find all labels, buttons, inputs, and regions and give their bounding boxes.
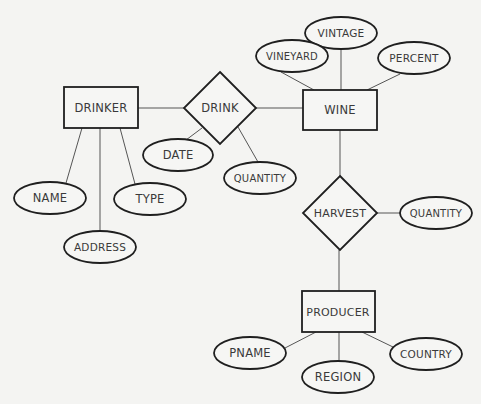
edge-drink-date <box>186 128 202 140</box>
relationship-label: DRINK <box>201 101 239 115</box>
er-diagram: DRINKER WINE PRODUCER DRINK HARVEST VINT… <box>0 0 481 404</box>
attribute-date[interactable]: DATE <box>143 139 213 171</box>
relationship-label: HARVEST <box>314 207 366 220</box>
attribute-label: COUNTRY <box>400 348 452 360</box>
attribute-vineyard[interactable]: VINEYARD <box>256 40 328 72</box>
entity-label: DRINKER <box>74 101 127 115</box>
attribute-pname[interactable]: PNAME <box>214 337 286 369</box>
attribute-country[interactable]: COUNTRY <box>390 338 462 370</box>
attribute-label: ADDRESS <box>74 241 126 253</box>
attribute-region[interactable]: REGION <box>302 361 374 393</box>
attribute-harvest-quantity[interactable]: QUANTITY <box>400 197 472 229</box>
attribute-label: PERCENT <box>389 52 439 64</box>
edge-drinker-type <box>120 128 135 184</box>
attribute-label: PNAME <box>229 346 271 360</box>
relationship-harvest[interactable]: HARVEST <box>303 176 377 250</box>
attribute-type[interactable]: TYPE <box>114 183 186 215</box>
attribute-drink-quantity[interactable]: QUANTITY <box>224 162 296 194</box>
attribute-percent[interactable]: PERCENT <box>378 42 450 74</box>
edge-producer-pname <box>285 332 316 348</box>
attribute-label: VINTAGE <box>318 27 365 39</box>
attribute-address[interactable]: ADDRESS <box>64 231 136 263</box>
attribute-label: REGION <box>315 370 361 384</box>
edge-drink-quantity <box>238 127 258 162</box>
attribute-name[interactable]: NAME <box>14 182 86 214</box>
edge-wine-vineyard <box>281 72 314 90</box>
edge-wine-percent <box>367 74 400 90</box>
entity-drinker[interactable]: DRINKER <box>64 87 138 128</box>
attribute-label: TYPE <box>134 192 164 206</box>
entity-producer[interactable]: PRODUCER <box>302 291 375 332</box>
edge-producer-country <box>362 332 393 347</box>
entity-wine[interactable]: WINE <box>303 90 377 130</box>
attribute-label: VINEYARD <box>266 51 318 62</box>
attribute-label: QUANTITY <box>410 208 463 219</box>
attribute-label: NAME <box>33 191 67 205</box>
entity-label: PRODUCER <box>306 306 369 319</box>
entity-label: WINE <box>324 103 355 117</box>
attribute-label: DATE <box>163 148 194 162</box>
attribute-label: QUANTITY <box>234 173 287 184</box>
edge-drinker-name <box>66 128 82 183</box>
